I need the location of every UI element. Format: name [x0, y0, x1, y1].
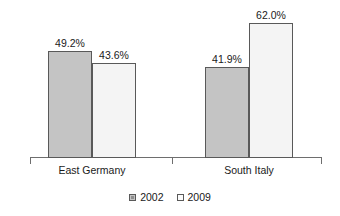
legend-item-2002[interactable]: 2002 — [129, 191, 163, 203]
bar-east-germany-2009[interactable] — [92, 63, 136, 158]
plot-area: 49.2% 43.6% 41.9% 62.0% East Germany Sou… — [0, 0, 340, 165]
legend-swatch-icon-2002 — [129, 194, 136, 201]
legend: 2002 2009 — [0, 191, 340, 203]
bar-label-south-italy-2002: 41.9% — [202, 53, 252, 65]
bar-chart: 49.2% 43.6% 41.9% 62.0% East Germany Sou… — [0, 0, 340, 216]
x-axis-tick-right — [321, 158, 322, 164]
bar-east-germany-2002[interactable] — [48, 51, 92, 158]
bar-south-italy-2002[interactable] — [205, 67, 249, 158]
bar-label-east-germany-2002: 49.2% — [45, 37, 95, 49]
x-axis-category-south-italy: South Italy — [199, 163, 299, 177]
x-axis-tick-center — [172, 158, 173, 164]
bar-label-east-germany-2009: 43.6% — [89, 49, 139, 61]
legend-label-2002: 2002 — [140, 191, 163, 203]
x-axis-category-east-germany: East Germany — [42, 163, 142, 177]
x-axis-tick-left — [30, 158, 31, 164]
legend-swatch-icon-2009 — [177, 194, 184, 201]
legend-label-2009: 2009 — [188, 191, 211, 203]
bar-south-italy-2009[interactable] — [249, 23, 293, 158]
bar-label-south-italy-2009: 62.0% — [246, 9, 296, 21]
legend-item-2009[interactable]: 2009 — [177, 191, 211, 203]
